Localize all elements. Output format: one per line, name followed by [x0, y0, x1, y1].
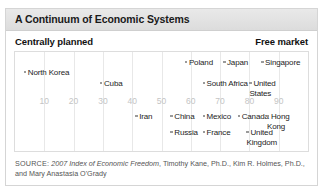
figure-card: A Continuum of Economic Systems Centrall… [5, 8, 318, 186]
point-marker-icon [223, 61, 226, 64]
data-point: United Kingdom [246, 128, 280, 147]
data-point: United States [249, 79, 283, 98]
page-title: A Continuum of Economic Systems [15, 13, 189, 25]
data-point: Singapore [261, 58, 300, 68]
x-axis-tick-label: 50 [157, 96, 166, 106]
figure-header-band: A Continuum of Economic Systems [6, 9, 317, 31]
data-point: Iran [135, 112, 152, 122]
data-point: South Africa [203, 79, 248, 89]
data-point: Russia [170, 128, 198, 138]
point-label: Canada [242, 112, 269, 121]
point-label: Russia [174, 128, 198, 137]
data-point: China [170, 112, 194, 122]
point-marker-icon [238, 115, 241, 118]
axis-pole-right-label: Free market [255, 36, 308, 47]
point-label: United Kingdom [246, 128, 277, 147]
point-marker-icon [261, 61, 264, 64]
point-label: China [174, 112, 194, 121]
x-axis-tick-label: 30 [98, 96, 107, 106]
data-point: France [203, 128, 231, 138]
data-point: Canada [238, 112, 269, 122]
point-marker-icon [135, 115, 138, 118]
source-title: 2007 Index of Economic Freedom [51, 159, 159, 168]
x-axis-tick-label: 40 [127, 96, 136, 106]
axis-pole-left-label: Centrally planned [15, 36, 93, 47]
point-marker-icon [100, 82, 103, 85]
point-marker-icon [249, 82, 252, 85]
x-axis-tick-label: 20 [69, 96, 78, 106]
data-point: Poland [185, 58, 213, 68]
point-label: Iran [139, 112, 152, 121]
point-label: North Korea [28, 68, 69, 77]
point-label: Cuba [104, 79, 123, 88]
data-point: Japan [223, 58, 248, 68]
point-label: Singapore [265, 58, 300, 67]
scatter-plot-area: 102030405060708090North KoreaCubaPolandJ… [14, 51, 309, 152]
point-label: France [207, 128, 231, 137]
point-marker-icon [170, 131, 173, 134]
data-point: Cuba [100, 79, 123, 89]
source-label: SOURCE: [15, 159, 49, 168]
point-marker-icon [203, 131, 206, 134]
point-marker-icon [203, 82, 206, 85]
point-marker-icon [267, 115, 270, 118]
point-marker-icon [170, 115, 173, 118]
point-marker-icon [246, 131, 249, 134]
point-label: United States [249, 79, 275, 98]
source-note: SOURCE: 2007 Index of Economic Freedom, … [15, 159, 308, 179]
point-label: South Africa [207, 79, 248, 88]
point-label: Poland [189, 58, 213, 67]
point-marker-icon [203, 115, 206, 118]
x-axis-tick-label: 10 [40, 96, 49, 106]
point-marker-icon [185, 61, 188, 64]
data-point: Mexico [203, 112, 231, 122]
x-axis-tick-label: 70 [215, 96, 224, 106]
data-point: North Korea [24, 68, 69, 78]
point-label: Mexico [207, 112, 231, 121]
point-marker-icon [24, 71, 27, 74]
x-axis-tick-label: 60 [186, 96, 195, 106]
point-label: Japan [227, 58, 248, 67]
